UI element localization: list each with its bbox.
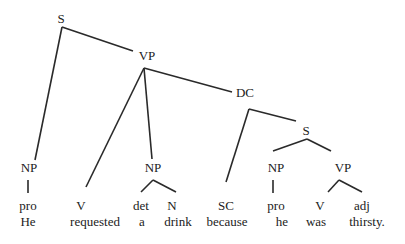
edge-s2-vp2 (307, 139, 331, 151)
node-s2: S (302, 123, 309, 138)
node-v1: V (76, 198, 86, 213)
edge-vp2-adj (339, 180, 362, 192)
edge-s1-np1 (35, 27, 62, 160)
edge-dc-s2 (249, 109, 296, 121)
tree-edges (28, 27, 362, 193)
node-vp2: VP (335, 160, 352, 175)
word-he: He (20, 214, 35, 229)
word-drink: drink (164, 214, 192, 229)
edge-np2-det (141, 180, 153, 192)
edge-vp1-dc (144, 68, 232, 92)
tree-labels: SVPDCSNPVNPSCNPVPprodetNproVadj (19, 11, 370, 213)
edge-np2-n (153, 180, 176, 192)
edge-s1-vp1 (62, 27, 133, 51)
word-was: was (306, 214, 326, 229)
node-n: N (167, 198, 177, 213)
edge-vp1-v1 (86, 68, 144, 187)
word-a: a (139, 214, 145, 229)
node-det: det (133, 198, 149, 213)
node-dc: DC (236, 85, 254, 100)
word-he2: he (276, 214, 289, 229)
node-np1: NP (21, 160, 38, 175)
word-requested: requested (70, 214, 120, 229)
node-v2: V (315, 198, 325, 213)
edge-vp1-np2 (144, 68, 152, 159)
syntax-tree: SVPDCSNPVNPSCNPVPprodetNproVadj Hereques… (0, 0, 405, 244)
edge-dc-sc (226, 109, 249, 182)
node-adj: adj (354, 198, 370, 213)
node-pro2: pro (267, 198, 284, 213)
node-s1: S (57, 11, 64, 26)
tree-words: Herequestedadrinkbecausehewasthirsty. (20, 214, 384, 229)
word-because: because (206, 214, 247, 229)
word-thirsty: thirsty. (349, 214, 385, 229)
node-sc: SC (218, 198, 234, 213)
edge-vp2-v2 (328, 180, 339, 192)
node-np2: NP (145, 160, 162, 175)
node-np3: NP (268, 160, 285, 175)
node-pro1: pro (19, 198, 36, 213)
node-vp1: VP (139, 48, 156, 63)
edge-s2-np3 (273, 139, 307, 151)
